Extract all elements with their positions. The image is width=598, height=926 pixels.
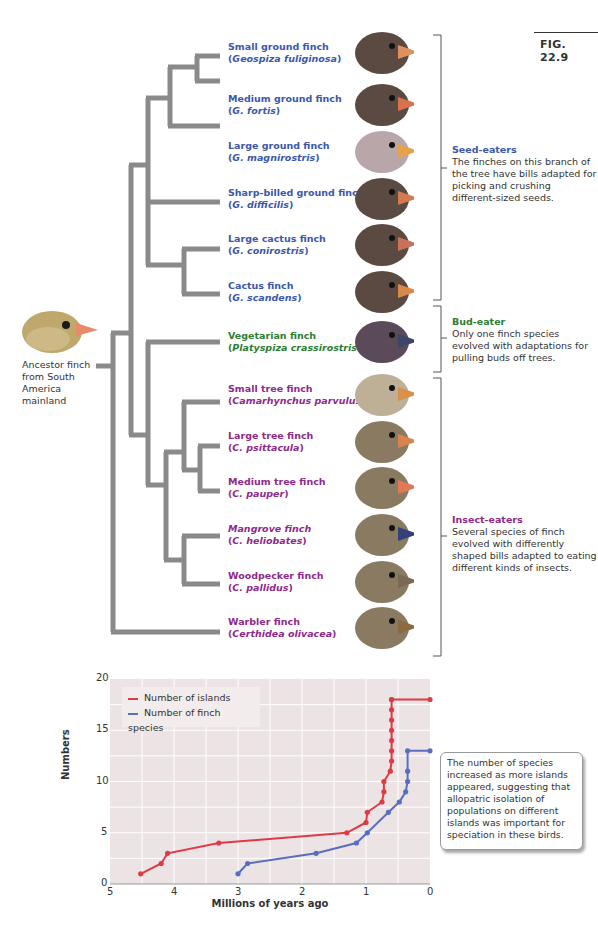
legend-item-islands: Number of islands [128,690,254,705]
x-tick: 5 [107,886,113,897]
species-label: Large ground finch(G. magnirostris) [228,140,330,164]
species-label: Vegetarian finch(Platyspiza crassirostri… [228,330,361,354]
group-title: Insect-eaters [452,514,597,526]
group-bud-eater: Bud-eater Only one finch species evolved… [452,316,597,364]
legend-swatch-red [128,698,138,700]
y-tick: 15 [96,723,109,734]
finch-head-icon [352,558,414,604]
group-title: Seed-eaters [452,144,597,156]
species-common-name: Large cactus finch [228,233,326,244]
species-common-name: Vegetarian finch [228,330,316,341]
finch-head-icon [352,221,414,267]
y-axis-title: Numbers [60,729,71,780]
finch-head-icon [352,128,414,174]
finch-head-icon [352,29,414,75]
y-tick: 20 [96,672,109,683]
x-tick: 2 [299,886,305,897]
species-scientific-name: (G. difficilis) [228,199,364,211]
species-scientific-name: (C. heliobates) [228,535,311,547]
species-scientific-name: (G. conirostris) [228,245,326,257]
species-scientific-name: (Geospiza fuliginosa) [228,53,341,65]
species-common-name: Warbler finch [228,616,300,627]
group-description: The finches on this branch of the tree h… [452,156,596,203]
chart-annotation: The number of species increased as more … [440,752,583,850]
species-label: Small ground finch(Geospiza fuliginosa) [228,41,341,65]
chart-legend: Number of islands Number of finch specie… [122,687,260,727]
species-common-name: Woodpecker finch [228,570,324,581]
species-label: Woodpecker finch(C. pallidus) [228,570,324,594]
species-scientific-name: (G. scandens) [228,292,302,304]
y-tick: 10 [96,775,109,786]
species-label: Cactus finch(G. scandens) [228,280,302,304]
group-seed-eaters: Seed-eaters The finches on this branch o… [452,144,597,204]
species-label: Medium tree finch(C. pauper) [228,476,326,500]
species-scientific-name: (Platyspiza crassirostris) [228,342,361,354]
species-scientific-name: (G. fortis) [228,105,342,117]
legend-swatch-blue [128,713,138,715]
y-tick: 5 [101,826,107,837]
species-common-name: Sharp-billed ground finch [228,187,364,198]
legend-item-species: Number of finch species [128,705,254,735]
species-scientific-name: (C. pallidus) [228,582,324,594]
species-label: Large cactus finch(G. conirostris) [228,233,326,257]
species-label: Medium ground finch(G. fortis) [228,93,342,117]
species-label: Large tree finch(C. psittacula) [228,430,313,454]
x-axis-title: Millions of years ago [212,898,329,909]
species-label: Sharp-billed ground finch(G. difficilis) [228,187,364,211]
species-scientific-name: (G. magnirostris) [228,152,330,164]
species-common-name: Mangrove finch [228,523,311,534]
species-common-name: Large tree finch [228,430,313,441]
species-scientific-name: (C. pauper) [228,488,326,500]
x-tick: 0 [427,886,433,897]
group-title: Bud-eater [452,316,597,328]
group-insect-eaters: Insect-eaters Several species of finch e… [452,514,597,574]
species-common-name: Medium ground finch [228,93,342,104]
x-tick: 1 [363,886,369,897]
species-label: Mangrove finch(C. heliobates) [228,523,311,547]
finch-head-icon [352,511,414,557]
finch-head-icon [352,175,414,221]
group-description: Several species of finch evolved with di… [452,526,597,573]
finch-head-icon [352,318,414,364]
group-description: Only one finch species evolved with adap… [452,328,588,363]
species-common-name: Small tree finch [228,383,313,394]
finch-head-icon [352,604,414,650]
species-scientific-name: (Camarhynchus parvulus) [228,395,365,407]
finch-head-icon [352,418,414,464]
x-tick: 4 [171,886,177,897]
x-tick: 3 [235,886,241,897]
species-scientific-name: (C. psittacula) [228,442,313,454]
species-label: Small tree finch(Camarhynchus parvulus) [228,383,365,407]
ancestor-label: Ancestor finch from South America mainla… [22,359,102,407]
finch-head-icon [352,464,414,510]
finch-head-icon [352,268,414,314]
species-common-name: Medium tree finch [228,476,326,487]
ancestor-finch-icon [14,305,104,355]
species-common-name: Large ground finch [228,140,330,151]
y-tick: 0 [101,877,107,888]
species-common-name: Cactus finch [228,280,293,291]
species-label: Warbler finch(Certhidea olivacea) [228,616,336,640]
species-common-name: Small ground finch [228,41,329,52]
species-scientific-name: (Certhidea olivacea) [228,628,336,640]
finch-head-icon [352,81,414,127]
finch-head-icon [352,371,414,417]
